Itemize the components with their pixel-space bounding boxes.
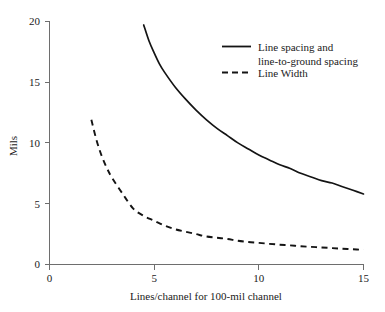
chart-legend: Line spacing and line-to-ground spacing … (222, 41, 358, 79)
chart-figure: 0 5 10 15 20 0 5 10 15 Lines/channel for… (0, 0, 385, 312)
x-tick-label: 0 (47, 272, 53, 284)
y-tick-label: 20 (29, 15, 41, 27)
y-tick-marks (45, 21, 50, 264)
x-tick-label: 10 (253, 272, 265, 284)
y-tick-label: 10 (29, 137, 41, 149)
x-tick-label: 5 (151, 272, 157, 284)
legend-label-series-0-line2: line-to-ground spacing (258, 55, 358, 67)
legend-label-series-0-line1: Line spacing and (258, 41, 334, 53)
y-tick-label: 15 (29, 76, 41, 88)
y-tick-label: 5 (35, 198, 41, 210)
y-tick-label: 0 (35, 258, 41, 270)
chart-svg: 0 5 10 15 20 0 5 10 15 Lines/channel for… (0, 0, 385, 312)
series-line-width (91, 120, 363, 250)
x-tick-label: 15 (358, 272, 370, 284)
legend-label-series-1-line1: Line Width (258, 67, 308, 79)
x-tick-labels: 0 5 10 15 (47, 272, 370, 284)
x-axis-title: Lines/channel for 100-mil channel (130, 290, 282, 302)
x-tick-marks (50, 265, 364, 270)
y-tick-labels: 0 5 10 15 20 (29, 15, 41, 270)
y-axis-title: Mils (7, 136, 19, 156)
